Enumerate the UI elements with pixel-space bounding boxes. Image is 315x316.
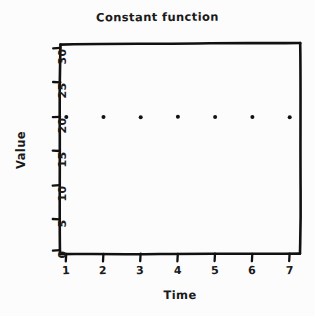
data-series-constant-function — [64, 115, 291, 119]
data-point — [139, 115, 143, 119]
x-tick-label-3: 3 — [128, 263, 153, 277]
data-point — [288, 115, 292, 119]
chart-title: Constant function — [0, 9, 315, 25]
x-tick-label-4: 4 — [166, 264, 190, 278]
data-point — [213, 115, 217, 119]
x-tick-label-5: 5 — [203, 263, 228, 277]
x-tick-label-7: 7 — [278, 264, 302, 278]
axes-frame — [60, 43, 301, 254]
x-tick-label-1: 1 — [54, 263, 79, 277]
data-point — [102, 115, 106, 119]
data-point — [176, 115, 180, 119]
plot-canvas — [0, 0, 315, 316]
x-tick-label-2: 2 — [91, 264, 115, 278]
x-axis-title: Time — [58, 287, 302, 303]
chart-figure: Constant function 30 25 20 15 10 5 0 1 2… — [0, 0, 315, 316]
x-tick-label-6: 6 — [240, 263, 265, 277]
y-tick-label-25: 25 — [56, 83, 69, 123]
y-axis-title: Value — [14, 126, 28, 174]
data-point — [250, 115, 254, 119]
